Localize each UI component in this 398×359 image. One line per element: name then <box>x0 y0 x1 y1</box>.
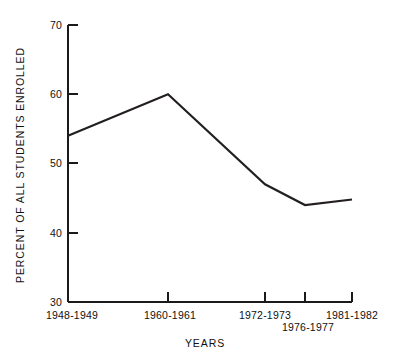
x-tick-label-1948-1949: 1948-1949 <box>46 309 98 321</box>
x-tick-label-1976-1977: 1976-1977 <box>282 321 334 333</box>
line-chart-canvas: 70 60 50 40 30 1948-1949 1960-1961 1972-… <box>0 0 398 359</box>
y-tick-label-30: 30 <box>50 296 62 308</box>
x-tick-label-1972-1973: 1972-1973 <box>239 309 291 321</box>
y-tick-label-70: 70 <box>50 19 62 31</box>
data-series-line <box>68 94 352 205</box>
chart-figure: 70 60 50 40 30 1948-1949 1960-1961 1972-… <box>0 0 398 359</box>
y-tick-label-60: 60 <box>50 88 62 100</box>
x-tick-label-1960-1961: 1960-1961 <box>144 309 196 321</box>
y-tick-label-40: 40 <box>50 227 62 239</box>
y-tick-label-50: 50 <box>50 157 62 169</box>
x-tick-label-1981-1982: 1981-1982 <box>326 309 378 321</box>
y-axis-title: PERCENT OF ALL STUDENTS ENROLLED <box>14 47 26 283</box>
x-axis-title: YEARS <box>185 337 225 349</box>
